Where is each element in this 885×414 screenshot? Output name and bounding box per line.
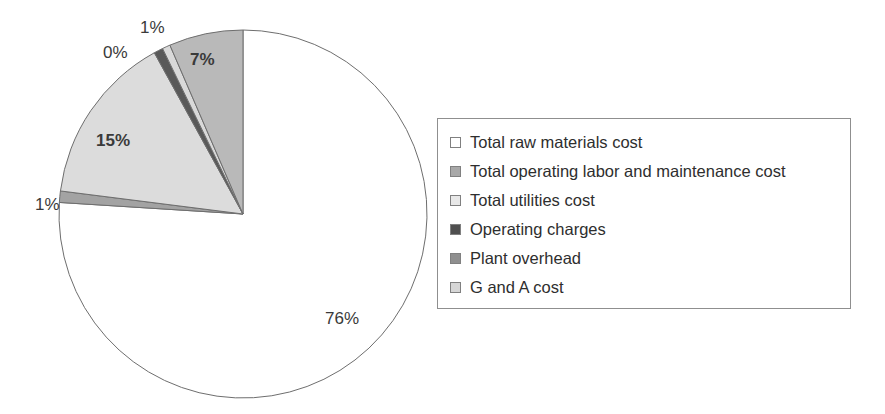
legend-item[interactable]: Plant overhead xyxy=(450,244,850,273)
legend-item[interactable]: Total raw materials cost xyxy=(450,128,850,157)
pie-label-1-left: 1% xyxy=(35,196,60,213)
legend-item-label: G and A cost xyxy=(470,279,564,296)
legend-item-label: Total utilities cost xyxy=(470,192,595,209)
pie-label-1-top: 1% xyxy=(140,19,165,36)
pie-label-0: 0% xyxy=(103,44,128,61)
pie-slice-group xyxy=(59,30,427,398)
pie-plot-area: 76%1%15%0%1%7% xyxy=(0,0,440,414)
legend-item[interactable]: Total operating labor and maintenance co… xyxy=(450,157,850,186)
legend-item-label: Total raw materials cost xyxy=(470,134,642,151)
pie-label-15: 15% xyxy=(96,132,130,149)
pie-chart-figure: 76%1%15%0%1%7% Total raw materials cost … xyxy=(0,0,885,414)
legend-swatch-icon xyxy=(450,166,461,177)
legend-item-label: Plant overhead xyxy=(470,250,581,267)
legend-swatch-icon xyxy=(450,224,461,235)
legend-swatch-icon xyxy=(450,195,461,206)
legend-item-label: Total operating labor and maintenance co… xyxy=(470,163,786,180)
pie-label-76: 76% xyxy=(325,310,359,327)
chart-legend: Total raw materials cost Total operating… xyxy=(437,118,851,309)
legend-item[interactable]: Operating charges xyxy=(450,215,850,244)
legend-swatch-icon xyxy=(450,253,461,264)
legend-item-label: Operating charges xyxy=(470,221,606,238)
legend-item[interactable]: Total utilities cost xyxy=(450,186,850,215)
pie-svg xyxy=(0,0,440,414)
legend-swatch-icon xyxy=(450,282,461,293)
legend-swatch-icon xyxy=(450,137,461,148)
pie-label-7: 7% xyxy=(190,51,215,68)
legend-item[interactable]: G and A cost xyxy=(450,273,850,302)
